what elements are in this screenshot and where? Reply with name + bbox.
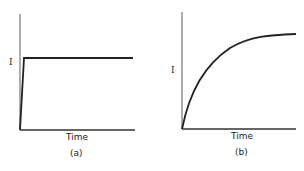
curve-a	[20, 58, 133, 130]
x-axis-label-a: Time	[66, 132, 88, 142]
panel-caption-a: (a)	[70, 148, 83, 158]
y-axis-label-a: I	[9, 57, 13, 67]
x-axis-label-b: Time	[231, 131, 253, 141]
figure-canvas	[0, 0, 304, 171]
y-axis-label-b: I	[171, 65, 175, 75]
panel-a	[20, 14, 135, 130]
panel-caption-b: (b)	[235, 147, 248, 157]
curve-b	[182, 34, 296, 129]
panel-b	[182, 12, 296, 129]
